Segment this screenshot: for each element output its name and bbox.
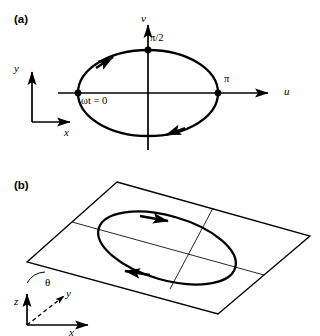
panel-label-a: (a)	[14, 14, 28, 26]
u-axis-label: u	[284, 86, 290, 97]
theta-angle-arc	[27, 272, 45, 283]
y-axis-depth	[27, 296, 64, 325]
label-omega-t-zero: ωt = 0	[81, 96, 107, 107]
label-pi: π	[224, 74, 229, 85]
v-axis-label: v	[141, 13, 146, 24]
direction-arrow-top-edge	[140, 216, 168, 221]
z-axis-label: z	[14, 296, 18, 307]
figure-canvas: (a) v u π/2 π ωt = 0 y x (b) θ z y x	[0, 0, 320, 336]
x-axis-label: x	[69, 327, 74, 336]
theta-label: θ	[45, 277, 50, 288]
x-axis-reference-label: x	[64, 127, 69, 138]
y-axis-reference-label: y	[14, 63, 19, 74]
label-half-pi: π/2	[150, 33, 163, 44]
panel-label-b: (b)	[14, 180, 29, 192]
phase-dot-pi	[215, 90, 222, 97]
panel-b-graphics	[27, 182, 310, 325]
reference-axes-a	[32, 72, 70, 122]
y-axis-label: y	[66, 288, 71, 299]
plane-grid-line-2	[170, 208, 213, 289]
phase-dot-half-pi	[145, 47, 152, 54]
